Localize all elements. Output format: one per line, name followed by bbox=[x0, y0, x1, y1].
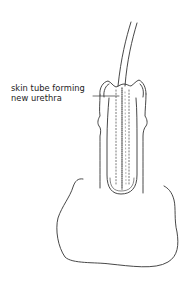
label-line-1: skin tube forming bbox=[11, 83, 85, 93]
skin-tube-label: skin tube forming new urethra bbox=[11, 83, 85, 103]
diagram-figure: skin tube forming new urethra bbox=[0, 0, 188, 281]
shaft-crown bbox=[100, 80, 146, 97]
base-outline bbox=[57, 179, 178, 267]
illustration-svg bbox=[0, 0, 188, 281]
shaft-outer-left bbox=[98, 95, 101, 188]
catheter-tube bbox=[118, 22, 137, 86]
suture-lines bbox=[116, 88, 129, 189]
shaft-outer-right bbox=[143, 94, 147, 193]
label-line-2: new urethra bbox=[11, 93, 85, 103]
